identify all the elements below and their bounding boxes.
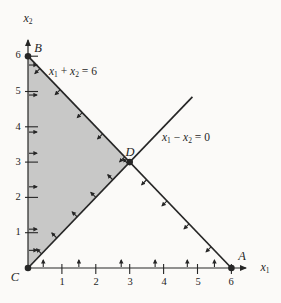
y-tick-label-5: 5 [15, 86, 20, 97]
vertex-dot-C [25, 265, 32, 272]
line1-feasible-arrow [184, 224, 189, 229]
x-axis-label: x1 [260, 261, 269, 273]
y-tick-label-2: 2 [15, 192, 20, 203]
vertex-label-C: C [11, 271, 19, 284]
x-tick-label-6: 6 [228, 277, 233, 288]
vertex-dot-A [228, 265, 235, 272]
vertex-label-B: B [34, 42, 42, 55]
y-tick-label-3: 3 [15, 157, 20, 168]
vertex-dot-D [126, 159, 133, 166]
eq2-rhs: = 0 [192, 131, 210, 143]
equation-label-line1: x1 + x2 = 6 [49, 66, 97, 78]
x-tick-label-3: 3 [127, 277, 132, 288]
y-tick-label-6: 6 [15, 50, 20, 61]
x-axis-label-sub: 1 [266, 266, 270, 275]
equation-label-line2: x1 − x2 = 0 [162, 132, 210, 144]
y-axis-label: x2 [23, 12, 32, 24]
x-tick-label-2: 2 [93, 277, 98, 288]
eq1-rhs: = 6 [79, 65, 97, 77]
vertex-dot-B [25, 53, 32, 60]
y-tick-label-4: 4 [15, 122, 20, 133]
eq2-operator: − [171, 131, 183, 143]
y-axis-label-sub: 2 [29, 17, 33, 26]
eq1-operator: + [58, 65, 70, 77]
line1-feasible-arrow [142, 180, 147, 185]
lp-feasible-region-figure: x2 x1 x1 + x2 = 6 x1 − x2 = 0 A B C D 1 … [0, 0, 281, 303]
x-tick-label-4: 4 [161, 277, 166, 288]
feasible-region [28, 56, 130, 268]
vertex-label-A: A [238, 250, 246, 263]
x-tick-label-5: 5 [195, 277, 200, 288]
line1-feasible-arrow [162, 201, 167, 206]
feasible-region-group [28, 56, 130, 268]
x-tick-label-1: 1 [59, 277, 64, 288]
line1-feasible-arrow [206, 247, 211, 252]
vertex-label-D: D [125, 146, 134, 159]
y-tick-label-1: 1 [15, 227, 20, 238]
